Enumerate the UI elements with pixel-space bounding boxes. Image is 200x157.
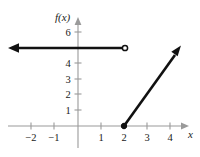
y-tick-label: 1: [65, 105, 70, 116]
function-graph-figure: −2 −1 1 2 3 4 1 2 3 4 6 f(x) x: [0, 0, 200, 157]
x-tick-label: 4: [167, 132, 173, 143]
axes-group: [8, 17, 189, 148]
plot-canvas: −2 −1 1 2 3 4 1 2 3 4 6 f(x) x: [0, 0, 200, 157]
x-tick-label: 1: [98, 132, 103, 143]
y-tick-label: 6: [65, 27, 70, 38]
x-tick-label: −2: [25, 132, 36, 143]
y-axis-label: f(x): [55, 11, 71, 24]
left-arrow-icon: [8, 43, 19, 53]
y-tick-label: 3: [65, 74, 70, 85]
y-tick-labels: 1 2 3 4 6: [65, 27, 71, 116]
y-tick-label: 4: [65, 58, 71, 69]
up-right-arrow-icon: [171, 46, 181, 57]
increasing-branch-segment: [124, 55, 175, 126]
closed-endpoint-dot: [121, 123, 126, 128]
x-tick-label: −1: [48, 132, 59, 143]
x-tick-labels: −2 −1 1 2 3 4: [25, 132, 173, 143]
x-tick-label: 3: [144, 132, 149, 143]
x-tick-label: 2: [121, 132, 126, 143]
increasing-branch-ray: [121, 46, 181, 129]
open-endpoint-dot: [122, 45, 127, 50]
constant-branch-ray: [8, 43, 128, 53]
x-axis-label: x: [187, 128, 193, 140]
y-tick-label: 2: [65, 89, 70, 100]
y-axis-arrow-icon: [75, 17, 82, 25]
